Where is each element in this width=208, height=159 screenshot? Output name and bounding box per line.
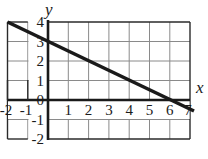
svg-text:2: 2 — [37, 53, 45, 69]
coordinate-plane: y x 4 3 2 1 0 -1 -2 -2 -1 1 2 3 4 5 6 7 — [0, 0, 208, 159]
svg-text:-2: -2 — [32, 131, 45, 147]
svg-text:7: 7 — [184, 102, 192, 118]
svg-text:1: 1 — [37, 73, 45, 89]
svg-text:0: 0 — [37, 92, 45, 108]
svg-text:6: 6 — [166, 102, 174, 118]
svg-text:2: 2 — [85, 102, 93, 118]
svg-text:-1: -1 — [32, 112, 45, 128]
y-axis-label: y — [43, 0, 53, 19]
svg-text:4: 4 — [125, 102, 133, 118]
svg-text:4: 4 — [37, 14, 45, 30]
svg-text:-1: -1 — [20, 102, 33, 118]
svg-text:-2: -2 — [0, 102, 12, 118]
x-axis-label: x — [195, 78, 204, 97]
svg-text:3: 3 — [37, 34, 45, 50]
svg-text:5: 5 — [146, 102, 154, 118]
svg-text:3: 3 — [105, 102, 113, 118]
svg-text:1: 1 — [65, 102, 73, 118]
